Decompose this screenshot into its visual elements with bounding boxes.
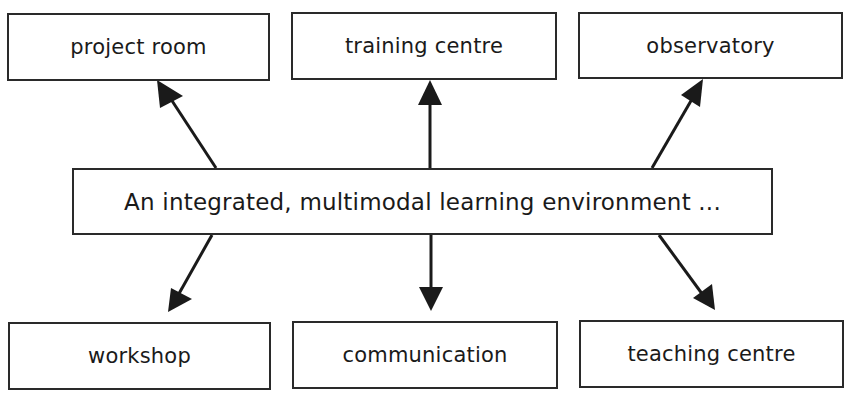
node-communication: communication xyxy=(292,321,558,389)
node-label: workshop xyxy=(88,344,191,368)
node-label: observatory xyxy=(646,34,774,58)
node-label: teaching centre xyxy=(627,342,795,366)
arrowhead-communication xyxy=(419,287,443,311)
center-label: An integrated, multimodal learning envir… xyxy=(124,189,721,215)
arrowhead-training-centre xyxy=(418,80,442,105)
node-observatory: observatory xyxy=(578,12,843,79)
node-label: project room xyxy=(70,35,206,59)
node-training-centre: training centre xyxy=(291,12,557,80)
arrowhead-project-room xyxy=(157,80,183,108)
node-teaching-centre: teaching centre xyxy=(579,320,844,388)
node-center: An integrated, multimodal learning envir… xyxy=(72,168,773,235)
arrowhead-observatory xyxy=(681,79,703,107)
node-label: training centre xyxy=(345,34,503,58)
node-project-room: project room xyxy=(7,13,270,81)
node-label: communication xyxy=(342,343,507,367)
node-workshop: workshop xyxy=(8,322,271,390)
